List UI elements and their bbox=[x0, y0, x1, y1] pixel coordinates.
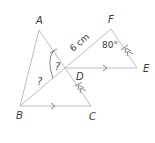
angle-label-f: 80° bbox=[102, 40, 118, 50]
point-label-f: F bbox=[108, 14, 114, 25]
unknown-angle-d: ? bbox=[55, 61, 61, 72]
segment-ab bbox=[20, 30, 39, 106]
point-label-e: E bbox=[143, 63, 150, 74]
angle-arc-d bbox=[50, 50, 54, 78]
unknown-angle-b: ? bbox=[37, 76, 43, 87]
double-arrow-dc-2 bbox=[80, 88, 86, 93]
point-label-c: C bbox=[89, 111, 96, 122]
point-label-d: D bbox=[76, 71, 84, 82]
point-label-b: B bbox=[16, 110, 23, 121]
point-label-a: A bbox=[35, 15, 43, 26]
length-label: 6 cm bbox=[68, 32, 92, 54]
geometry-diagram: A B C D E F 6 cm 80° ? ? bbox=[0, 0, 155, 143]
